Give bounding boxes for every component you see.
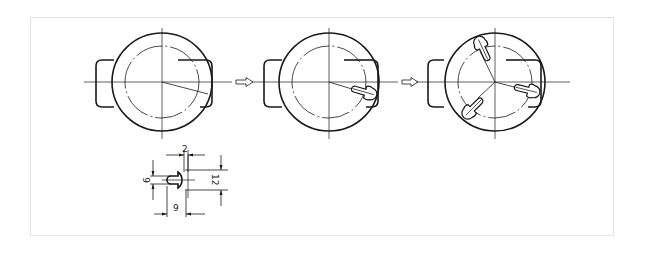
technical-drawing: 2 6 12 9 (0, 0, 648, 253)
stage-1-part (84, 28, 232, 139)
t-slot-detail: 2 6 12 9 (142, 144, 228, 217)
stage-3-part (416, 28, 570, 139)
t-slot-bottom (459, 94, 487, 122)
t-slot-top (471, 34, 494, 63)
dim-top-width: 2 (182, 144, 188, 154)
stage-2-part (252, 28, 398, 139)
dim-slot-height: 6 (142, 177, 152, 183)
t-slot (350, 82, 379, 102)
arrow-stage2-to-stage3 (402, 78, 418, 87)
arrow-stage1-to-stage2 (236, 78, 253, 87)
t-slot-right (513, 80, 542, 99)
dim-stem-length: 9 (173, 203, 179, 213)
radial-line (162, 82, 208, 94)
drawing-frame (31, 18, 614, 236)
dim-head-height: 12 (210, 174, 220, 185)
